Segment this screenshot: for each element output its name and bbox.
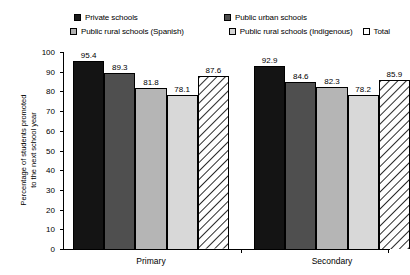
y-axis-tick: 50	[60, 151, 63, 152]
y-axis-tick-label: 80	[46, 87, 55, 96]
y-axis-tick-label: 0	[51, 245, 55, 254]
legend-swatch-diagonal-hatch-icon	[363, 28, 370, 35]
legend-label-public-urban-schools: Public urban schools	[235, 13, 307, 22]
legend-label-total: Total	[374, 27, 390, 36]
y-axis-title: Percentage of students promoted to the n…	[17, 50, 41, 250]
bar-series-container: 95.489.381.878.187.6Primary92.984.682.37…	[64, 52, 390, 249]
bar: 78.1	[167, 95, 198, 249]
bar-value-label: 78.1	[174, 85, 190, 94]
bar: 95.4	[73, 61, 104, 249]
bar-value-label: 85.9	[387, 70, 403, 79]
x-axis-end-tick	[388, 249, 389, 253]
legend-swatch-solid-dark-gray-icon	[224, 14, 231, 21]
bar: 92.9	[254, 66, 285, 249]
legend-row-2: Public rural schools (Spanish) Public ru…	[70, 24, 400, 38]
y-axis-tick-label: 10	[46, 225, 55, 234]
bar-value-label: 78.2	[355, 85, 371, 94]
legend-item-total: Total	[363, 27, 390, 36]
y-axis-tick-label: 90	[46, 67, 55, 76]
y-axis-tick: 10	[60, 229, 63, 230]
y-axis-tick: 30	[60, 190, 63, 191]
y-axis-tick: 70	[60, 111, 63, 112]
legend-item-public-rural-spanish: Public rural schools (Spanish)	[70, 27, 219, 36]
bar: 81.8	[135, 88, 166, 249]
legend-item-public-rural-indigenous: Public rural schools (Indigenous)	[229, 27, 353, 36]
legend-swatch-solid-black-icon	[74, 14, 81, 21]
y-axis-tick: 90	[60, 72, 63, 73]
bar-hatch-fill	[199, 77, 228, 249]
plot-area: 1009080706050403020100 95.489.381.878.18…	[63, 52, 390, 250]
y-axis-tick-label: 60	[46, 126, 55, 135]
legend-item-public-urban-schools: Public urban schools	[224, 13, 307, 22]
y-axis-tick-label: 40	[46, 166, 55, 175]
legend-swatch-solid-light-gray-icon	[229, 28, 236, 35]
bar: 87.6	[198, 76, 229, 249]
x-axis-group-separator-tick	[241, 249, 242, 253]
bar: 84.6	[285, 82, 316, 249]
legend-label-public-rural-indigenous: Public rural schools (Indigenous)	[240, 27, 353, 36]
y-axis-tick-label: 50	[46, 146, 55, 155]
legend-label-public-rural-spanish: Public rural schools (Spanish)	[81, 27, 184, 36]
bar-value-label: 84.6	[293, 72, 309, 81]
bar: 89.3	[104, 73, 135, 249]
bar-value-label: 89.3	[112, 63, 128, 72]
y-axis-tick: 100	[60, 52, 63, 53]
bar-value-label: 82.3	[324, 77, 340, 86]
bar: 78.2	[348, 95, 379, 249]
y-axis-tick: 60	[60, 131, 63, 132]
bar: 82.3	[316, 87, 347, 249]
legend-swatch-solid-medium-gray-icon	[70, 28, 77, 35]
bar-value-label: 92.9	[262, 56, 278, 65]
bar-value-label: 95.4	[81, 51, 97, 60]
bar-group-primary: 95.489.381.878.187.6Primary	[73, 52, 229, 249]
y-axis-tick-label: 30	[46, 185, 55, 194]
x-axis-group-label: Primary	[73, 256, 229, 266]
y-axis-title-line-2: to the next school year	[29, 50, 39, 250]
y-axis-tick: 20	[60, 210, 63, 211]
bar-value-label: 81.8	[143, 78, 159, 87]
legend-label-private-schools: Private schools	[85, 13, 138, 22]
y-axis-tick-label: 100	[42, 48, 55, 57]
bar-value-label: 87.6	[206, 66, 222, 75]
bar: 85.9	[379, 80, 410, 249]
y-axis-tick-label: 20	[46, 205, 55, 214]
chart-legend: Private schools Public urban schools Pub…	[70, 10, 400, 38]
x-axis-group-label: Secondary	[254, 256, 410, 266]
y-axis-tick: 40	[60, 170, 63, 171]
x-axis-line	[63, 249, 390, 250]
y-axis-title-line-1: Percentage of students promoted	[19, 50, 29, 250]
y-axis-title-text: Percentage of students promoted to the n…	[19, 50, 39, 250]
y-axis-tick-label: 70	[46, 107, 55, 116]
bar-group-secondary: 92.984.682.378.285.9Secondary	[254, 52, 410, 249]
legend-row-1: Private schools Public urban schools	[70, 10, 400, 24]
legend-item-private-schools: Private schools	[74, 13, 214, 22]
y-axis-tick: 80	[60, 91, 63, 92]
bar-hatch-fill	[380, 81, 409, 249]
y-axis-tick: 0	[60, 249, 63, 250]
